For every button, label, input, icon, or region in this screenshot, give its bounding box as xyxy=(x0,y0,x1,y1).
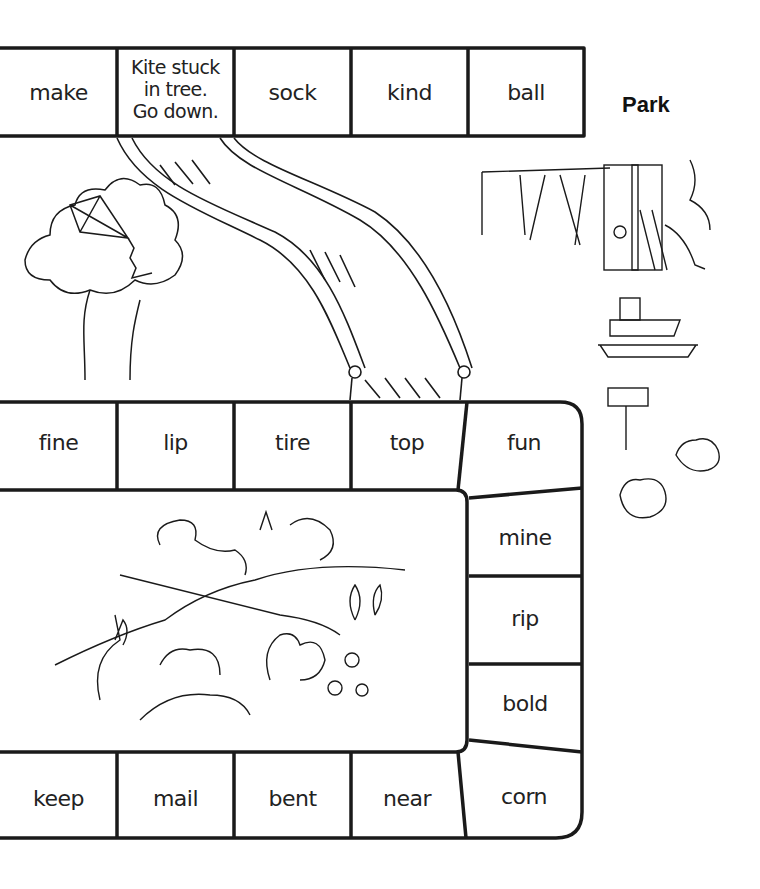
space-kite-stuck: Kite stuck in tree. Go down. xyxy=(117,56,234,122)
space-corn: corn xyxy=(466,784,582,809)
space-make: make xyxy=(0,80,117,105)
space-keep: keep xyxy=(0,786,117,811)
space-rip: rip xyxy=(468,606,582,631)
space-bold: bold xyxy=(468,691,582,716)
space-top: top xyxy=(351,430,463,455)
space-sock: sock xyxy=(234,80,351,105)
board-title: Park xyxy=(622,92,670,118)
space-lip: lip xyxy=(117,430,234,455)
kite-line-1: Kite stuck xyxy=(117,56,234,78)
space-bent: bent xyxy=(234,786,351,811)
space-fine: fine xyxy=(0,430,117,455)
slide-illustration xyxy=(117,138,472,400)
space-mail: mail xyxy=(117,786,234,811)
kite-line-3: Go down. xyxy=(117,100,234,122)
kite-line-2: in tree. xyxy=(117,78,234,100)
game-board: Park make Kite stuck in tree. Go down. s… xyxy=(0,0,760,889)
space-near: near xyxy=(351,786,463,811)
animal-scene-illustration xyxy=(55,512,405,720)
tree-kite-illustration xyxy=(25,179,183,380)
space-ball: ball xyxy=(468,80,584,105)
space-tire: tire xyxy=(234,430,351,455)
space-mine: mine xyxy=(468,525,582,550)
space-fun: fun xyxy=(466,430,582,455)
space-kind: kind xyxy=(351,80,468,105)
park-illustration xyxy=(482,160,719,518)
